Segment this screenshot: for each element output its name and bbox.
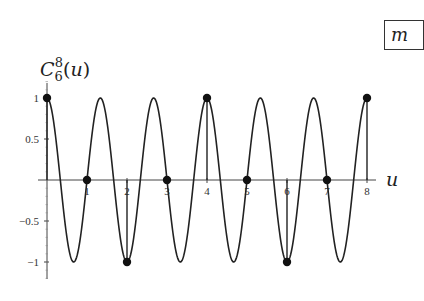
y-tick-label: 0.5 — [25, 133, 39, 145]
y-tick-label: −0.5 — [19, 215, 39, 227]
x-tick-label: 4 — [204, 185, 210, 197]
sample-dot — [243, 176, 251, 184]
x-axis-label: u — [386, 168, 398, 190]
sample-dot — [83, 176, 91, 184]
sample-dot — [163, 176, 171, 184]
sample-dot — [363, 94, 371, 102]
annotation-box: m — [384, 20, 424, 50]
sample-dot — [43, 94, 51, 102]
x-tick-label: 8 — [364, 185, 370, 197]
y-axis-label: C68(u) — [40, 55, 90, 84]
sample-dot — [323, 176, 331, 184]
y-tick-label: 1 — [34, 92, 40, 104]
sample-dot — [123, 258, 131, 266]
sample-dot — [203, 94, 211, 102]
sample-dot — [283, 258, 291, 266]
y-tick-label: −1 — [27, 256, 39, 268]
